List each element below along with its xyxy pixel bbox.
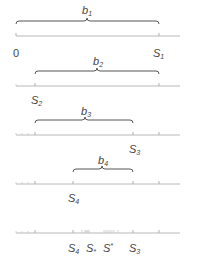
label-s4: S4 — [68, 192, 79, 205]
label-zero: 0 — [13, 47, 19, 59]
brace-label-b4: b4 — [98, 154, 108, 167]
brace-b1 — [16, 18, 159, 24]
label-s3: S3 — [129, 143, 140, 156]
label-s-lower-star: S* — [86, 242, 96, 255]
row-3: b3 S3 — [16, 105, 180, 156]
brace-b3 — [35, 117, 133, 123]
label-s3-final: S3 — [129, 242, 140, 255]
brace-label-b3: b3 — [81, 105, 91, 118]
label-s1: S1 — [153, 47, 164, 60]
brace-b4 — [73, 166, 133, 172]
brace-label-b1: b1 — [82, 4, 92, 17]
label-s-upper-star: S* — [103, 242, 113, 254]
brace-label-b2: b2 — [93, 55, 103, 68]
row-1: b1 0 S1 — [13, 4, 180, 60]
row-4: b4 S4 — [16, 154, 180, 205]
row-2: b2 S2 — [16, 55, 180, 107]
label-s2: S2 — [31, 94, 42, 107]
row-5: S4 S* S* S3 — [16, 230, 180, 255]
bracketing-diagram: b1 0 S1 b2 S2 b3 S3 b4 — [0, 0, 198, 259]
label-s4-final: S4 — [68, 242, 79, 255]
brace-b2 — [35, 68, 159, 74]
